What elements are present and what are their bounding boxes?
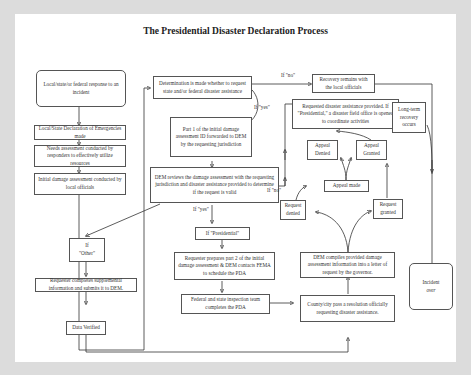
- node-assistance-provided: Requested disaster assistance provided. …: [292, 99, 399, 129]
- node-requester-part2: Requester prepares part 2 of the initial…: [174, 252, 275, 280]
- node-determination-text: Determination is made whether to request…: [157, 80, 248, 95]
- node-if-other-text-2: "Other": [79, 250, 95, 258]
- node-data-verified-text: Data Verified: [72, 324, 100, 332]
- node-requester-supplemental-text: Requester completes supplemental informa…: [39, 277, 133, 292]
- node-if-presidential: If "Presidential": [195, 227, 250, 240]
- node-initial-assessment: Initial damage assessment conducted by l…: [34, 173, 126, 195]
- node-local-declaration: Local/State Declaration of Emergencies m…: [34, 125, 126, 140]
- node-long-term-recovery-text: Long-term recovery occurs: [396, 106, 422, 129]
- node-incident-over-text-2: over: [426, 287, 435, 295]
- edge-label-if-no-mid: If "no": [267, 187, 281, 193]
- node-recovery-local: Recovery remains with the local official…: [312, 74, 375, 93]
- node-recovery-local-text: Recovery remains with the local official…: [316, 76, 371, 91]
- node-long-term-recovery: Long-term recovery occurs: [392, 102, 426, 133]
- node-needs-assessment: Needs assessment conducted by responders…: [34, 145, 126, 167]
- node-request-granted: Request granted: [373, 199, 403, 219]
- node-part1-text: Part 1 of the initial damage assessment …: [174, 126, 248, 149]
- node-dem-reviews: DEM reviews the damage assessment with t…: [150, 167, 279, 203]
- edge-label-if-yes-mid: If "yes": [193, 206, 209, 212]
- node-determination: Determination is made whether to request…: [153, 76, 252, 99]
- node-if-presidential-text: If "Presidential": [206, 230, 239, 238]
- edge-label-if-no-top: If "no": [281, 72, 295, 78]
- edge-label-if-yes-top: If "yes": [254, 104, 270, 110]
- node-response: Local/state/or federal response to an in…: [36, 70, 126, 107]
- node-appeal-made-text: Appeal made: [333, 182, 361, 190]
- node-requester-part2-text: Requester prepares part 2 of the initial…: [178, 255, 271, 278]
- node-appeal-granted: Appeal Granted: [356, 140, 387, 160]
- node-request-denied-text: Request denied: [284, 202, 302, 217]
- node-part1: Part 1 of the initial damage assessment …: [170, 117, 252, 157]
- node-dem-compiles-text: DEM compiles provided damage assessment …: [304, 254, 391, 277]
- node-appeal-denied-text: Appeal Denied: [311, 142, 334, 157]
- node-incident-over: Incidentover: [409, 263, 453, 310]
- node-needs-assessment-text: Needs assessment conducted by responders…: [38, 145, 122, 168]
- node-dem-compiles: DEM compiles provided damage assessment …: [300, 252, 395, 278]
- node-appeal-denied: Appeal Denied: [307, 140, 338, 160]
- node-data-verified: Data Verified: [66, 321, 106, 335]
- node-requester-supplemental: Requester completes supplemental informa…: [35, 278, 137, 292]
- node-incident-over-text-1: Incident: [423, 279, 440, 287]
- node-county-resolution: County/city pass a resolution officially…: [300, 295, 395, 322]
- diagram-title: The Presidential Disaster Declaration Pr…: [0, 26, 471, 36]
- node-if-other-text-1: If: [85, 242, 88, 250]
- node-response-text: Local/state/or federal response to an in…: [40, 81, 122, 96]
- node-federal-state-pda: Federal and state inspection team comple…: [181, 294, 270, 314]
- node-if-other: If"Other": [69, 238, 105, 262]
- node-dem-reviews-text: DEM reviews the damage assessment with t…: [154, 174, 275, 197]
- node-request-granted-text: Request granted: [377, 201, 399, 216]
- node-request-denied: Request denied: [280, 200, 306, 220]
- node-federal-state-pda-text: Federal and state inspection team comple…: [185, 296, 266, 311]
- node-appeal-made: Appeal made: [324, 180, 369, 192]
- node-assistance-provided-text: Requested disaster assistance provided. …: [296, 103, 395, 126]
- node-county-resolution-text: County/city pass a resolution officially…: [304, 301, 391, 316]
- node-local-declaration-text: Local/State Declaration of Emergencies m…: [38, 125, 122, 140]
- node-initial-assessment-text: Initial damage assessment conducted by l…: [38, 176, 122, 191]
- node-appeal-granted-text: Appeal Granted: [360, 142, 383, 157]
